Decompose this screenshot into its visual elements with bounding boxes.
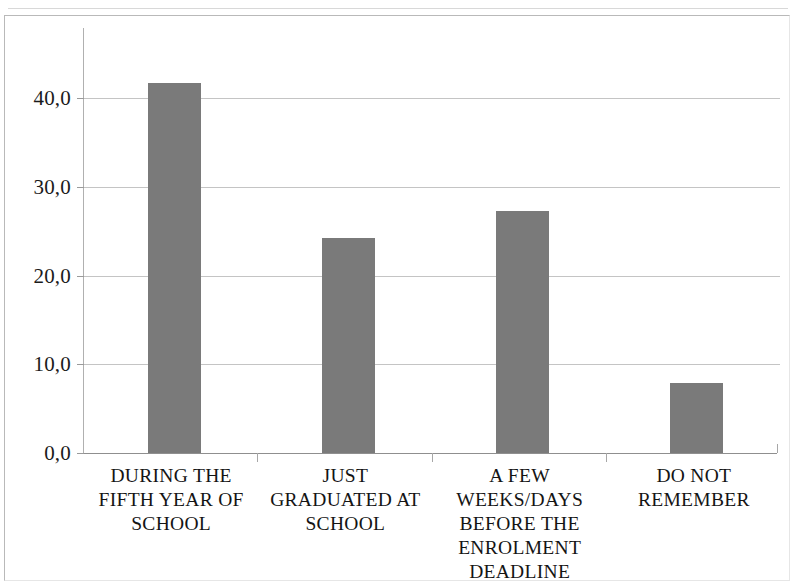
category-label-line: A FEW [433,464,607,488]
x-axis-baseline [77,453,777,454]
y-axis-tick-label: 20,0 [33,263,71,288]
x-axis-tick [432,453,433,462]
category-label-line: DO NOT [607,464,781,488]
category-label-line: REMEMBER [607,488,781,512]
bar [322,238,375,453]
plot-area: 0,010,020,030,040,0 [83,76,780,453]
category-label-line: DURING THE [84,464,258,488]
x-axis-end-tick [777,444,778,453]
category-label-line: SCHOOL [258,512,432,536]
x-axis-tick [606,453,607,462]
category-label: DURING THEFIFTH YEAR OFSCHOOL [84,464,258,536]
y-axis-tick [77,98,84,99]
bar [670,383,723,453]
y-axis-tick-label: 30,0 [33,174,71,199]
category-label-line: BEFORE THE [433,512,607,536]
bar [148,83,201,453]
y-axis-tick [77,187,84,188]
category-label-line: FIFTH YEAR OF [84,488,258,512]
category-label: JUSTGRADUATED ATSCHOOL [258,464,432,536]
chart-frame: 0,010,020,030,040,0 DURING THEFIFTH YEAR… [4,15,790,581]
category-label-line: SCHOOL [84,512,258,536]
bar [496,211,549,453]
category-label-line: GRADUATED AT [258,488,432,512]
y-axis-tick-label: 0,0 [44,441,71,466]
chart-page: 0,010,020,030,040,0 DURING THEFIFTH YEAR… [0,0,795,585]
x-axis-category-labels: DURING THEFIFTH YEAR OFSCHOOLJUSTGRADUAT… [84,464,781,585]
x-axis-tick [257,453,258,462]
y-axis-tick [77,364,84,365]
category-label-line: ENROLMENT [433,536,607,560]
y-axis-tick-label: 40,0 [33,86,71,111]
scan-artifact-top [0,0,795,10]
y-axis-line [83,28,84,453]
category-label-line: DEADLINE [433,560,607,584]
category-label-line: JUST [258,464,432,488]
y-axis-tick [77,453,84,454]
category-label-line: WEEKS/DAYS [433,488,607,512]
y-axis-tick [77,276,84,277]
category-label: A FEWWEEKS/DAYSBEFORE THEENROLMENTDEADLI… [433,464,607,584]
category-label: DO NOTREMEMBER [607,464,781,512]
y-axis-tick-label: 10,0 [33,352,71,377]
